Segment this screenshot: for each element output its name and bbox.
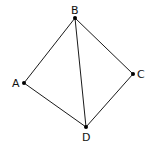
edge-c-d xyxy=(86,74,133,127)
label-c: C xyxy=(137,68,145,81)
graph-svg: A B C D xyxy=(0,0,151,151)
label-a: A xyxy=(12,77,20,90)
label-d: D xyxy=(82,131,90,144)
edge-d-a xyxy=(24,83,86,127)
edges xyxy=(24,18,133,127)
label-b: B xyxy=(71,4,79,17)
vertex-d xyxy=(84,125,88,129)
diagram-canvas: A B C D xyxy=(0,0,151,151)
edge-b-c xyxy=(75,18,133,74)
vertices xyxy=(22,16,135,129)
vertex-c xyxy=(131,72,135,76)
labels: A B C D xyxy=(12,4,145,144)
edge-a-b xyxy=(24,18,75,83)
vertex-a xyxy=(22,81,26,85)
edge-b-d xyxy=(75,18,86,127)
